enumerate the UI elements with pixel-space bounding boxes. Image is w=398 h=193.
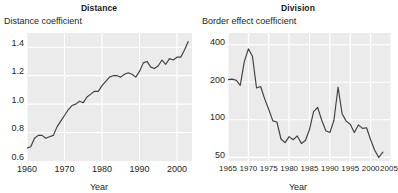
x-tick-division-1995: 1995 [341, 164, 359, 173]
y-axis-label-distance: Distance coefficient [4, 16, 82, 26]
x-tick-division-2005: 2005 [380, 164, 398, 173]
panel-division: Division Border effect coefficient [199, 0, 397, 193]
y-tick-distance-1.0: 1.0 [2, 95, 24, 105]
y-tick-division-50: 50 [201, 150, 225, 160]
y-tick-division-100: 100 [201, 112, 225, 122]
y-tick-distance-1.2: 1.2 [2, 66, 24, 76]
y-tick-distance-1.4: 1.4 [2, 38, 24, 48]
x-tick-distance-1960: 1960 [17, 164, 37, 174]
x-tick-distance-1970: 1970 [54, 164, 74, 174]
y-tick-distance-0.8: 0.8 [2, 123, 24, 133]
gridlines-division [228, 33, 391, 161]
y-tick-distance-0.6: 0.6 [2, 152, 24, 162]
x-tick-distance-1990: 1990 [129, 164, 149, 174]
panel-distance: Distance Distance coefficient [0, 0, 198, 193]
x-tick-distance-2000: 2000 [167, 164, 187, 174]
y-tick-division-200: 200 [201, 75, 225, 85]
panel-title-division: Division [199, 3, 397, 13]
y-tick-division-400: 400 [201, 37, 225, 47]
line-chart-division [228, 33, 391, 161]
data-line-division [228, 49, 383, 158]
gridlines-distance [27, 33, 192, 161]
x-tick-division-1990: 1990 [321, 164, 339, 173]
x-tick-division-1975: 1975 [260, 164, 278, 173]
x-tick-division-2000: 2000 [362, 164, 380, 173]
x-axis-label-division: Year [199, 182, 397, 192]
x-tick-division-1985: 1985 [301, 164, 319, 173]
plot-area-distance [27, 33, 192, 161]
y-axis-label-division: Border effect coefficient [202, 16, 296, 26]
x-tick-division-1965: 1965 [219, 164, 237, 173]
plot-area-division [228, 33, 391, 161]
x-tick-distance-1980: 1980 [92, 164, 112, 174]
line-chart-distance [27, 33, 192, 161]
x-tick-division-1980: 1980 [280, 164, 298, 173]
x-axis-label-distance: Year [0, 182, 198, 192]
x-tick-division-1970: 1970 [239, 164, 257, 173]
panel-title-distance: Distance [0, 3, 198, 13]
